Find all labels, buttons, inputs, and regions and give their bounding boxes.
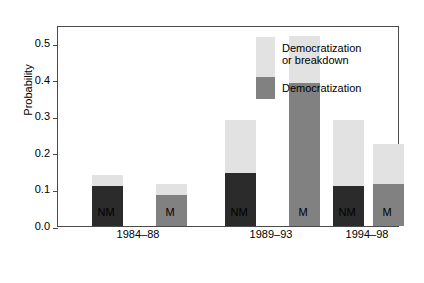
- y-tick-label: 0.5: [24, 37, 50, 49]
- legend-label-0-line1: Democratization: [282, 42, 361, 54]
- plot-area: 0.00.10.20.30.40.5 Democratization or br…: [57, 26, 399, 227]
- y-tick-mark: [53, 154, 58, 155]
- bar-segment-democratization: [373, 184, 404, 226]
- y-tick-mark: [53, 228, 58, 229]
- legend-label-1: Democratization: [282, 82, 361, 94]
- y-tick-mark: [53, 118, 58, 119]
- bar-segment-breakdown: [333, 120, 364, 186]
- bar-segment-democratization: [225, 173, 256, 226]
- y-tick-label: 0.4: [24, 74, 50, 86]
- bar-segment-breakdown: [92, 175, 123, 186]
- y-tick-mark: [53, 81, 58, 82]
- bar-segment-democratization: [289, 83, 320, 226]
- chart-figure: Probability 0.00.10.20.30.40.5 Democrati…: [0, 0, 424, 283]
- bar-segment-breakdown: [225, 120, 256, 173]
- bar-198488-M: [156, 184, 187, 226]
- y-tick-label: 0.0: [24, 220, 50, 232]
- y-tick-mark: [53, 45, 58, 46]
- y-tick-label: 0.2: [24, 147, 50, 159]
- legend-swatch-0: [256, 37, 275, 77]
- x-group-label-199498: 1994–98: [307, 228, 424, 240]
- legend-label-0: Democratization or breakdown: [282, 42, 361, 66]
- legend-swatch-1: [256, 77, 275, 99]
- y-tick-label: 0.3: [24, 110, 50, 122]
- y-tick-mark: [53, 191, 58, 192]
- bar-segment-breakdown: [373, 144, 404, 184]
- x-tick-label-nm-2: NM: [216, 206, 262, 218]
- x-tick-label-nm-0: NM: [83, 206, 129, 218]
- bar-198488-NM: [92, 175, 123, 226]
- legend-label-0-line2: or breakdown: [282, 54, 349, 66]
- x-tick-label-m-1: M: [147, 206, 193, 218]
- y-tick-label: 0.1: [24, 183, 50, 195]
- x-tick-label-m-3: M: [280, 206, 326, 218]
- x-tick-label-m-5: M: [364, 206, 410, 218]
- legend-label-1-line1: Democratization: [282, 82, 361, 94]
- bar-segment-breakdown: [156, 184, 187, 195]
- x-group-label-198488: 1984–88: [78, 228, 198, 240]
